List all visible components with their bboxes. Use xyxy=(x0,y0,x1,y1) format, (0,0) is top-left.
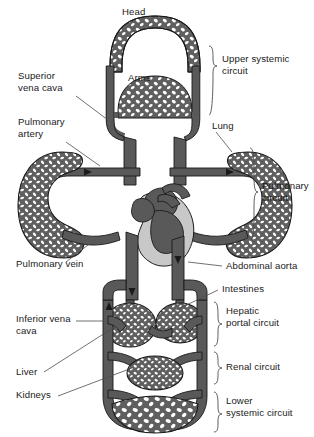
leader-superior-vena-cava xyxy=(76,96,108,120)
label-intestines: Intestines xyxy=(222,283,264,295)
bracket-upper-systemic xyxy=(209,46,217,115)
bracket-label-upper-systemic: Upper systemic circuit xyxy=(222,53,290,76)
label-arms: Arms xyxy=(128,72,151,84)
circulatory-system-diagram: Head Arms Superior vena cava Pulmonary a… xyxy=(0,0,314,437)
kidneys-capillary-bed xyxy=(127,356,183,390)
label-lung: Lung xyxy=(212,120,234,132)
leader-lung xyxy=(216,132,232,152)
bracket-label-hepatic-portal: Hepatic portal circuit xyxy=(226,305,279,328)
label-pulmonary-vein: Pulmonary vein xyxy=(16,258,84,270)
bracket-lower-systemic xyxy=(214,392,222,432)
bracket-renal xyxy=(214,352,222,384)
label-superior-vena-cava: Superior vena cava xyxy=(18,70,63,93)
label-inferior-vena-cava: Inferior vena cava xyxy=(16,313,71,336)
leader-abdominal-aorta xyxy=(188,262,222,266)
bracket-label-lower-systemic: Lower systemic circuit xyxy=(226,395,293,418)
label-head: Head xyxy=(122,6,145,18)
bracket-label-pulmonary: Pulmonary circuit xyxy=(262,180,309,203)
bracket-label-renal: Renal circuit xyxy=(226,361,280,373)
label-pulmonary-artery: Pulmonary artery xyxy=(18,116,65,139)
label-kidneys: Kidneys xyxy=(16,389,51,401)
label-liver: Liver xyxy=(16,366,37,378)
label-abdominal-aorta: Abdominal aorta xyxy=(226,260,297,272)
head-capillary-bed xyxy=(110,16,200,72)
bracket-hepatic-portal xyxy=(214,302,222,346)
